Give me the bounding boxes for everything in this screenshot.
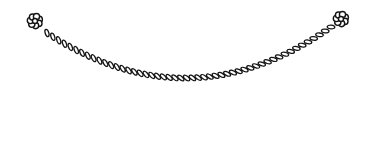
swag-bottom-edge bbox=[64, 93, 326, 144]
rope-cord bbox=[44, 25, 335, 82]
drawing-canvas: Black-and-white line drawing of a window… bbox=[0, 0, 376, 166]
right-cascade bbox=[308, 30, 365, 153]
right-rosette-knot bbox=[333, 12, 348, 27]
swag-curtain-drawing: Black-and-white line drawing of a window… bbox=[0, 0, 376, 166]
swag-top-edge bbox=[47, 23, 329, 29]
left-rosette-knot bbox=[27, 14, 42, 29]
left-cascade bbox=[13, 29, 69, 157]
